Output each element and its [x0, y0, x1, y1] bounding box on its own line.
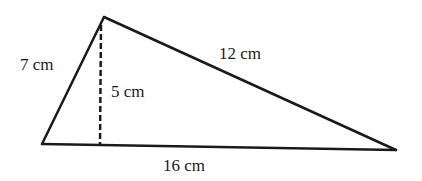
base-label: 16 cm [163, 156, 205, 175]
triangle-diagram: 7 cm 5 cm 12 cm 16 cm [0, 0, 422, 181]
right-side [104, 17, 396, 150]
altitude-dashed [100, 25, 101, 145]
right-side-label: 12 cm [219, 44, 261, 63]
base [42, 144, 396, 150]
left-side-label: 7 cm [20, 55, 54, 74]
left-side [42, 17, 104, 144]
altitude-label: 5 cm [111, 82, 145, 101]
